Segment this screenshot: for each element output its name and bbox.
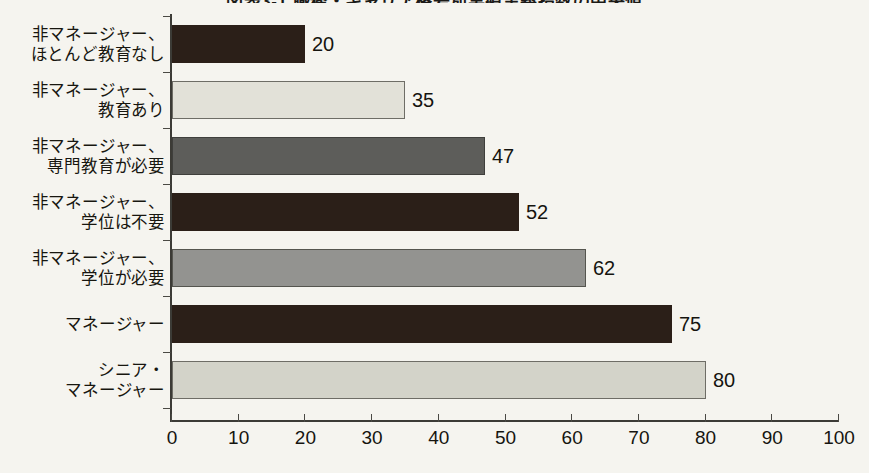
y-axis-tick bbox=[163, 352, 171, 353]
y-axis-tick bbox=[163, 408, 171, 409]
bar-category-label-line: ほとんど教育なし bbox=[31, 44, 165, 64]
y-axis-tick bbox=[163, 296, 171, 297]
x-axis-tick bbox=[171, 414, 172, 422]
bar-row: 非マネージャー、ほとんど教育なし20 bbox=[0, 16, 869, 72]
y-axis-tick bbox=[163, 184, 171, 185]
x-axis-tick-label: 20 bbox=[275, 427, 335, 449]
bar-value-label: 20 bbox=[305, 16, 334, 72]
x-axis-tick-label: 80 bbox=[676, 427, 736, 449]
bar-category-label-line: 専門教育が必要 bbox=[47, 156, 165, 176]
bar bbox=[172, 361, 706, 399]
plot-area: 非マネージャー、ほとんど教育なし20非マネージャー、教育あり35非マネージャー、… bbox=[0, 0, 869, 473]
x-axis-tick-label: 100 bbox=[809, 427, 869, 449]
y-axis-tick bbox=[163, 128, 171, 129]
x-axis-tick-label: 70 bbox=[609, 427, 669, 449]
bar-category-label-line: 非マネージャー、 bbox=[32, 192, 165, 212]
bar-category-label: 非マネージャー、教育あり bbox=[0, 72, 165, 128]
x-axis-tick-label: 10 bbox=[209, 427, 269, 449]
x-axis-tick bbox=[771, 414, 772, 422]
bar-category-label-line: 非マネージャー、 bbox=[32, 80, 165, 100]
x-axis-tick bbox=[238, 414, 239, 422]
bar-category-label-line: 非マネージャー、 bbox=[32, 24, 165, 44]
bar-row: 非マネージャー、専門教育が必要47 bbox=[0, 128, 869, 184]
x-axis-tick bbox=[638, 414, 639, 422]
x-axis-tick-label: 0 bbox=[142, 427, 202, 449]
x-axis-tick bbox=[505, 414, 506, 422]
x-axis-tick-label: 90 bbox=[742, 427, 802, 449]
bar bbox=[172, 25, 305, 63]
bar-chart: 図表3-1 職務・キャリア格差別実績主義指数の中央値 非マネージャー、ほとんど教… bbox=[0, 0, 869, 473]
y-axis-tick bbox=[163, 72, 171, 73]
bar-category-label: 非マネージャー、学位が必要 bbox=[0, 240, 165, 296]
bar bbox=[172, 193, 519, 231]
bar-category-label-line: 学位が必要 bbox=[81, 268, 165, 288]
bar bbox=[172, 305, 672, 343]
x-axis-tick-label: 60 bbox=[542, 427, 602, 449]
y-axis-line bbox=[170, 14, 172, 421]
x-axis-tick-label: 50 bbox=[476, 427, 536, 449]
bar bbox=[172, 81, 405, 119]
bar-row: シニア・マネージャー80 bbox=[0, 352, 869, 408]
bar-category-label-line: シニア・ bbox=[98, 360, 165, 380]
bar bbox=[172, 249, 586, 287]
bar-category-label-line: 非マネージャー、 bbox=[32, 248, 165, 268]
bar-category-label-line: マネージャー bbox=[65, 380, 165, 400]
x-axis-tick bbox=[705, 414, 706, 422]
bar-value-label: 35 bbox=[405, 72, 434, 128]
y-axis-tick bbox=[163, 16, 171, 17]
x-axis-tick bbox=[438, 414, 439, 422]
bar-value-label: 80 bbox=[706, 352, 735, 408]
bar-category-label-line: 非マネージャー、 bbox=[32, 136, 165, 156]
bar-value-label: 52 bbox=[519, 184, 548, 240]
bar bbox=[172, 137, 485, 175]
bar-row: 非マネージャー、教育あり35 bbox=[0, 72, 869, 128]
bar-value-label: 62 bbox=[586, 240, 615, 296]
bar-category-label: 非マネージャー、学位は不要 bbox=[0, 184, 165, 240]
bar-row: 非マネージャー、学位が必要62 bbox=[0, 240, 869, 296]
y-axis-tick bbox=[163, 240, 171, 241]
bar-category-label: シニア・マネージャー bbox=[0, 352, 165, 408]
bar-category-label-line: マネージャー bbox=[65, 314, 165, 334]
x-axis-tick bbox=[304, 414, 305, 422]
bar-value-label: 75 bbox=[672, 296, 701, 352]
x-axis-tick-label: 40 bbox=[409, 427, 469, 449]
x-axis-tick bbox=[371, 414, 372, 422]
bar-category-label: 非マネージャー、専門教育が必要 bbox=[0, 128, 165, 184]
bar-category-label-line: 教育あり bbox=[98, 100, 165, 120]
x-axis-tick bbox=[838, 414, 839, 422]
bar-row: マネージャー75 bbox=[0, 296, 869, 352]
x-axis-tick-label: 30 bbox=[342, 427, 402, 449]
x-axis-tick bbox=[571, 414, 572, 422]
bar-category-label: 非マネージャー、ほとんど教育なし bbox=[0, 16, 165, 72]
bar-category-label-line: 学位は不要 bbox=[81, 212, 165, 232]
bar-category-label: マネージャー bbox=[0, 296, 165, 352]
bar-row: 非マネージャー、学位は不要52 bbox=[0, 184, 869, 240]
bar-value-label: 47 bbox=[485, 128, 514, 184]
